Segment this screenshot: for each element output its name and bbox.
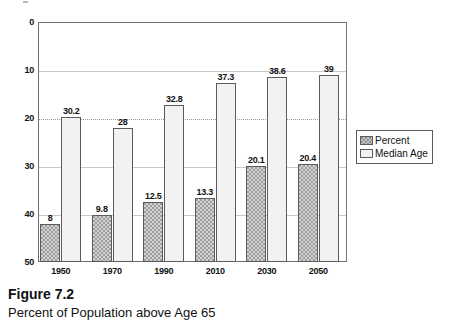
- bar-value-label: 9.8: [96, 205, 108, 214]
- y-tick-label: 20: [4, 114, 34, 123]
- bar-median-age: 39: [319, 75, 339, 262]
- bar-value-label: 20.1: [248, 156, 265, 165]
- bar-median-age: 28: [113, 128, 133, 262]
- x-tick-label: 2030: [257, 266, 276, 276]
- bar-value-label: 39: [324, 65, 334, 74]
- y-axis: 50403020100: [0, 0, 34, 325]
- x-tick-label: 1950: [51, 266, 70, 276]
- bars-layer: 830.29.82812.532.813.337.320.138.620.439: [38, 22, 347, 262]
- x-axis: 195019701990201020302050: [38, 266, 347, 280]
- bar-percent: 12.5: [143, 202, 163, 262]
- legend-swatch-percent-icon: [360, 136, 373, 145]
- bar-percent: 8: [40, 224, 60, 262]
- y-tick-label: 40: [4, 210, 34, 219]
- bar-value-label: 12.5: [145, 192, 162, 201]
- bar-median-age: 37.3: [216, 83, 236, 262]
- bar-value-label: 20.4: [299, 154, 316, 163]
- caption: Figure 7.2 Percent of Population above A…: [8, 286, 448, 321]
- figure-number: Figure 7.2: [8, 286, 448, 303]
- x-tick-label: 2010: [206, 266, 225, 276]
- legend-label-median-age: Median Age: [375, 148, 428, 159]
- x-tick-label: 1990: [154, 266, 173, 276]
- bar-median-age: 30.2: [61, 117, 81, 262]
- bar-group: 830.2: [38, 22, 90, 262]
- y-tick-label: 0: [4, 18, 34, 27]
- bar-percent: 20.1: [246, 166, 266, 262]
- chart-legend: Percent Median Age: [356, 130, 433, 164]
- bar-value-label: 28: [118, 118, 128, 127]
- figure-chart: 50403020100 830.29.82812.532.813.337.320…: [0, 0, 451, 325]
- x-tick-label: 2050: [309, 266, 328, 276]
- legend-item-percent: Percent: [360, 134, 428, 147]
- bar-value-label: 32.8: [166, 95, 183, 104]
- x-tick-label: 1970: [103, 266, 122, 276]
- bar-percent: 9.8: [92, 215, 112, 262]
- bar-group: 9.828: [90, 22, 142, 262]
- bar-value-label: 13.3: [196, 188, 213, 197]
- bar-percent: 20.4: [298, 164, 318, 262]
- bar-value-label: 38.6: [269, 67, 286, 76]
- bar-percent: 13.3: [195, 198, 215, 262]
- y-tick-label: 50: [4, 258, 34, 267]
- bar-value-label: 8: [48, 214, 53, 223]
- bar-group: 20.138.6: [244, 22, 296, 262]
- y-tick-label: 10: [4, 66, 34, 75]
- bar-value-label: 30.2: [63, 107, 80, 116]
- bar-group: 20.439: [296, 22, 348, 262]
- bar-group: 13.337.3: [193, 22, 245, 262]
- bar-group: 12.532.8: [141, 22, 193, 262]
- legend-swatch-median-age-icon: [360, 149, 373, 158]
- bar-median-age: 32.8: [164, 105, 184, 262]
- bar-value-label: 37.3: [217, 73, 234, 82]
- y-tick-label: 30: [4, 162, 34, 171]
- bar-median-age: 38.6: [267, 77, 287, 262]
- legend-item-median-age: Median Age: [360, 147, 428, 160]
- figure-title: Percent of Population above Age 65: [8, 304, 448, 321]
- legend-label-percent: Percent: [375, 135, 409, 146]
